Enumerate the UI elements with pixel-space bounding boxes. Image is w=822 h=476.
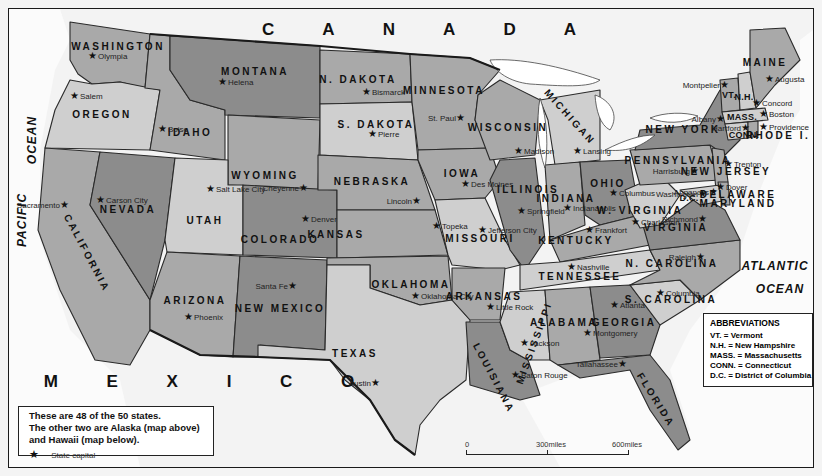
- star-icon: ★: [520, 337, 529, 348]
- capital-michigan: ★Lansing: [573, 145, 611, 156]
- state-label-utah: UTAH: [186, 215, 223, 226]
- star-icon: ★: [412, 195, 421, 206]
- state-label-maryland: MARYLAND: [700, 198, 777, 209]
- legend-key-label: State capital: [51, 451, 95, 460]
- capital-maine: ★Augusta: [765, 73, 804, 84]
- capital-tennessee: ★Nashville: [567, 261, 609, 272]
- star-icon: ★: [514, 145, 523, 156]
- capital-name: Dover: [726, 183, 747, 192]
- star-icon: ★: [752, 97, 761, 108]
- abbreviation-row: VT. = Vermont: [710, 331, 806, 341]
- capital-montana: ★Helena: [218, 76, 253, 87]
- abbreviation-row: N.H. = New Hampshire: [710, 341, 806, 351]
- capital-delaware: ★Dover: [716, 181, 747, 192]
- capital-name: Springfield: [527, 207, 565, 216]
- star-icon: ★: [158, 123, 167, 134]
- star-icon: ★: [478, 224, 487, 235]
- star-icon: ★: [698, 188, 707, 199]
- star-icon: ★: [299, 182, 308, 193]
- capital-wisconsin: ★Madison: [514, 145, 554, 156]
- capital-name: Carson City: [106, 196, 148, 205]
- state-label-arizona: ARIZONA: [163, 295, 226, 306]
- state-label-texas: TEXAS: [332, 348, 378, 359]
- legend-line-3: and Hawaii (map below).: [29, 434, 203, 446]
- capital-name: Boston: [769, 110, 794, 119]
- capital-oregon: ★Salem: [70, 90, 103, 101]
- state-label-nevada: NEVADA: [100, 204, 156, 215]
- legend-line-2: The other two are Alaska (map above): [29, 422, 203, 434]
- capital-name: Austin: [349, 379, 371, 388]
- state-label-nebraska: NEBRASKA: [334, 176, 411, 187]
- us-map: C A N A D AM E X I C OPACIFICOCEANATLANT…: [0, 0, 822, 476]
- star-icon: ★: [759, 121, 768, 132]
- capital-n-carolina: Raleigh★: [669, 251, 706, 262]
- capital-wyoming: Cheyenne★: [263, 182, 309, 193]
- state-label-kansas: KANSAS: [307, 229, 364, 240]
- star-icon: ★: [96, 194, 105, 205]
- capital-name: Sacramento: [17, 201, 60, 210]
- star-icon: ★: [567, 261, 576, 272]
- star-icon: ★: [88, 50, 97, 61]
- capital-name: Bismarck: [372, 88, 405, 97]
- star-icon: ★: [60, 199, 69, 210]
- state-label-n-dakota: N. DAKOTA: [319, 74, 396, 85]
- star-icon: ★: [656, 287, 665, 298]
- star-icon: ★: [583, 327, 592, 338]
- capital-name: Cheyenne: [263, 184, 299, 193]
- capital-name: Topeka: [442, 222, 468, 231]
- legend-box: These are 48 of the 50 states. The other…: [18, 406, 214, 456]
- capital-name: Helena: [228, 78, 253, 87]
- star-icon: ★: [610, 299, 619, 310]
- capital-name: Columbia: [666, 289, 700, 298]
- map-canvas: [0, 0, 822, 476]
- star-icon: ★: [456, 112, 465, 123]
- star-icon: ★: [371, 377, 380, 388]
- state-label-new-mexico: NEW MEXICO: [235, 303, 326, 314]
- star-icon: ★: [301, 213, 310, 224]
- star-icon: ★: [563, 202, 572, 213]
- capital-name: Washington: [656, 190, 698, 199]
- capital-name: Olympia: [98, 52, 127, 61]
- capital-vt: Montpelier★: [683, 79, 730, 90]
- capital-s-carolina: ★Columbia: [656, 287, 700, 298]
- capital-name: Tallahassee: [576, 360, 618, 369]
- capital-name: Charleston: [641, 218, 680, 227]
- capital-name: Concord: [762, 99, 792, 108]
- state-label-w-virginia: W. VIRGINIA: [597, 205, 683, 216]
- abbreviations-title: ABBREVIATIONS: [710, 318, 806, 328]
- capital-california: Sacramento★: [17, 199, 70, 210]
- scale-tick-300: 300miles: [536, 440, 566, 449]
- capital-name: Little Rock: [496, 303, 533, 312]
- star-icon: ★: [411, 290, 420, 301]
- capital-minnesota: St. Paul★: [428, 112, 466, 123]
- star-icon: ★: [486, 301, 495, 312]
- star-icon: ★: [573, 145, 582, 156]
- star-icon: ★: [432, 220, 441, 231]
- scale-tick-mark: [466, 450, 467, 455]
- capital-washington: ★Olympia: [88, 50, 127, 61]
- capital-name: Lincoln: [387, 197, 412, 206]
- star-icon: ★: [631, 216, 640, 227]
- star-icon: ★: [696, 251, 705, 262]
- abbreviations-box: ABBREVIATIONS VT. = Vermont N.H. = New H…: [703, 313, 813, 387]
- abbreviation-row: D.C. = District of Columbia: [710, 371, 806, 381]
- star-icon: ★: [368, 128, 377, 139]
- star-icon: ★: [206, 183, 215, 194]
- star-icon: ★: [709, 186, 718, 197]
- star-icon: ★: [585, 224, 594, 235]
- capital-name: Santa Fe: [256, 282, 288, 291]
- capital-name: Providence: [769, 123, 809, 132]
- capital-alabama: ★Montgomery: [583, 327, 637, 338]
- ocean-label-atlantic-ocean-2: OCEAN: [756, 282, 804, 296]
- capital-n-dakota: ★Bismarck: [362, 86, 405, 97]
- state-label-new-york: NEW YORK: [646, 124, 721, 135]
- star-icon: ★: [29, 448, 39, 460]
- capital-name: Boise: [168, 125, 188, 134]
- ocean-label-pacific-ocean-2: OCEAN: [25, 116, 39, 164]
- capital-name: Pierre: [378, 130, 399, 139]
- star-icon: ★: [724, 158, 733, 169]
- star-icon: ★: [517, 205, 526, 216]
- capital-texas: Austin★: [349, 377, 381, 388]
- state-label-georgia: GEORGIA: [592, 317, 657, 328]
- capital-name: Raleigh: [669, 253, 696, 262]
